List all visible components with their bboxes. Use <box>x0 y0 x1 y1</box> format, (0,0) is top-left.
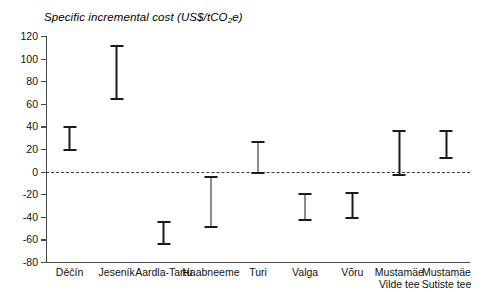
y-tick-label: 100 <box>20 53 38 64</box>
error-bar-cap-upper <box>393 130 406 132</box>
x-axis-category-label: Võru <box>341 267 363 279</box>
y-tick-mark <box>41 81 46 82</box>
chart-title: Specific incremental cost (US$/tCO2e) <box>44 11 243 23</box>
y-tick-label: -20 <box>23 189 38 200</box>
error-bar-cap-lower <box>110 98 123 100</box>
error-bar-cap-lower <box>299 219 312 221</box>
error-bar-stem <box>69 126 71 151</box>
error-bar <box>157 221 170 245</box>
error-bar-cap-lower <box>440 157 453 159</box>
x-axis-category-label-line: Vilde tee <box>375 279 424 291</box>
error-bar <box>440 130 453 159</box>
y-tick-mark <box>41 126 46 127</box>
error-bar <box>346 192 359 219</box>
error-bar-stem <box>210 176 212 228</box>
x-axis-category-label-line: Jeseník <box>99 266 135 278</box>
error-bar <box>299 193 312 221</box>
error-bar-cap-upper <box>440 130 453 132</box>
y-tick-mark <box>41 262 46 263</box>
x-axis-category-label: Valga <box>292 267 318 279</box>
error-bar <box>63 126 76 151</box>
error-bar-cap-upper <box>299 193 312 195</box>
x-axis-line <box>46 262 470 263</box>
y-tick-mark <box>41 149 46 150</box>
x-axis-category-label: MustamäeVilde tee <box>375 267 424 290</box>
x-axis-category-label: MustamäeSutiste tee <box>422 267 472 290</box>
error-bar <box>204 176 217 228</box>
x-axis-category-label: Jeseník <box>99 267 135 279</box>
y-tick-label: 60 <box>26 99 38 110</box>
x-axis-category-label: Děčín <box>56 267 83 279</box>
y-tick-mark <box>41 104 46 105</box>
x-axis-category-label-line: Sutiste tee <box>422 279 472 291</box>
y-tick-label: -40 <box>23 212 38 223</box>
error-bar-cap-upper <box>252 141 265 143</box>
y-tick-mark <box>41 239 46 240</box>
error-bar-cap-upper <box>63 126 76 128</box>
x-axis-category-label-line: Võru <box>341 266 363 278</box>
error-bar <box>110 45 123 100</box>
y-tick-label: -80 <box>23 257 38 268</box>
chart-title-suffix: e) <box>232 11 242 23</box>
error-bar-stem <box>304 193 306 221</box>
y-tick-label: 80 <box>26 76 38 87</box>
x-axis-category-label-line: Valga <box>292 266 318 278</box>
y-axis-line <box>46 36 47 263</box>
error-bar-cap-upper <box>110 45 123 47</box>
plot-area: 120100806040200-20-40-60-80 DěčínJeseník… <box>46 36 470 263</box>
error-bar-stem <box>257 141 259 174</box>
x-axis-category-label-line: Mustamäe <box>422 266 471 278</box>
error-bar-cap-lower <box>63 149 76 151</box>
chart-figure: Specific incremental cost (US$/tCO2e) 12… <box>0 0 487 292</box>
error-bar-stem <box>351 192 353 219</box>
y-tick-mark <box>41 59 46 60</box>
x-axis-category-label-line: Mustamäe <box>375 266 424 278</box>
y-tick-mark <box>41 36 46 37</box>
error-bar-cap-upper <box>204 176 217 178</box>
error-bar-stem <box>446 130 448 159</box>
error-bar-cap-lower <box>252 172 265 174</box>
error-bar-cap-upper <box>346 192 359 194</box>
y-tick-mark <box>41 217 46 218</box>
y-tick-label: 0 <box>32 166 38 177</box>
x-axis-category-label: Haabneeme <box>182 267 239 279</box>
x-axis-category-label-line: Děčín <box>56 266 83 278</box>
error-bar-stem <box>163 221 165 245</box>
x-axis-category-label-line: Turi <box>249 266 267 278</box>
error-bar-stem <box>399 130 401 176</box>
y-tick-mark <box>41 194 46 195</box>
error-bar <box>252 141 265 174</box>
error-bar-cap-lower <box>157 243 170 245</box>
y-tick-label: -60 <box>23 234 38 245</box>
error-bar-cap-lower <box>204 226 217 228</box>
error-bar-stem <box>116 45 118 100</box>
error-bar-cap-upper <box>157 221 170 223</box>
y-tick-label: 40 <box>26 121 38 132</box>
error-bar-cap-lower <box>393 174 406 176</box>
y-tick-label: 20 <box>26 144 38 155</box>
x-axis-category-label-line: Haabneeme <box>182 266 239 278</box>
chart-title-prefix: Specific incremental cost (US$/tCO <box>44 11 228 23</box>
error-bar <box>393 130 406 176</box>
error-bar-cap-lower <box>346 217 359 219</box>
x-axis-category-label: Turi <box>249 267 267 279</box>
y-tick-label: 120 <box>20 31 38 42</box>
chart-title-subscript: 2 <box>228 16 233 25</box>
